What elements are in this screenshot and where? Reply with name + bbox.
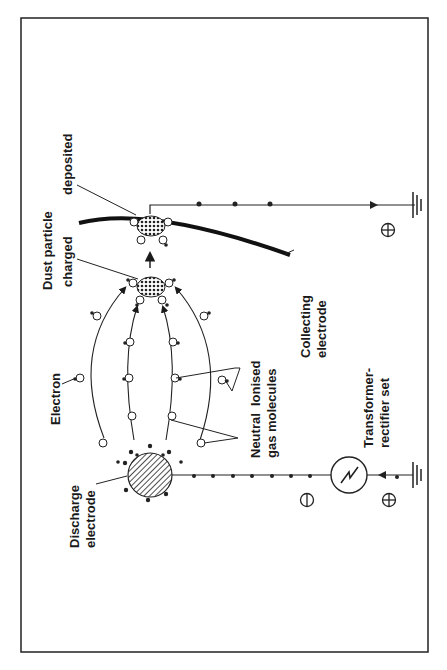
label-neutral-ionised: Neutral Ionised [248, 360, 263, 458]
discharge-electrode [123, 444, 172, 502]
label-gas-molecules: gas molecules [264, 368, 279, 458]
label-deposited: deposited [60, 134, 75, 195]
label-electron: Electron [48, 373, 63, 425]
dust-particle-charged [126, 277, 176, 307]
supply-ground-icon [413, 462, 421, 488]
collecting-electrode [79, 218, 290, 255]
label-rectifier-set: rectifier set [377, 377, 392, 448]
precipitator-diagram: Dust particle deposited charged Collecti… [0, 0, 447, 670]
dust-particle-deposited [130, 216, 172, 247]
gas-molecules [73, 311, 229, 464]
label-discharge-electrode: electrode [83, 490, 98, 548]
label-electrode: electrode [314, 300, 329, 358]
frame-border [21, 18, 428, 652]
label-charged: charged [60, 236, 75, 287]
field-lines [91, 288, 211, 440]
collector-positive-icon [381, 223, 395, 237]
label-collecting: Collecting [298, 295, 313, 358]
collector-ground-wire [150, 201, 415, 214]
discharge-wire [172, 471, 413, 479]
label-discharge: Discharge [67, 485, 82, 548]
label-dust-particle: Dust particle [40, 211, 55, 290]
label-transformer: Transformer- [361, 368, 376, 448]
transformer-rectifier-icon [331, 457, 367, 493]
positive-polarity-icon [382, 493, 396, 507]
negative-polarity-icon [301, 493, 314, 507]
